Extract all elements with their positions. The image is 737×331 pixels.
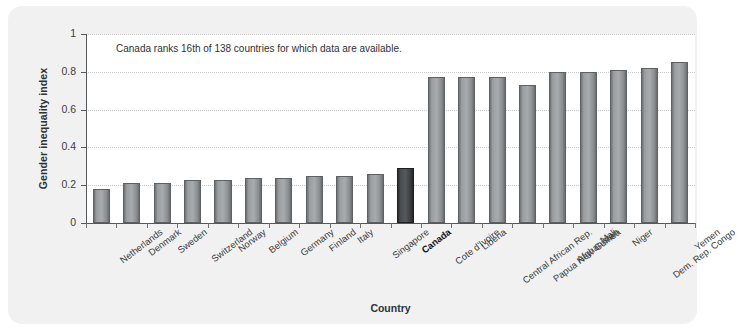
figure-panel: 00.20.40.60.81 NetherlandsDenmarkSwedenS… bbox=[8, 6, 697, 324]
y-axis-title: Gender inequality index bbox=[34, 34, 52, 223]
x-axis-title: Country bbox=[86, 302, 695, 314]
bar-afghanistan bbox=[549, 72, 566, 223]
bar-denmark bbox=[123, 183, 140, 223]
x-tick-mark bbox=[665, 223, 666, 228]
bar-singapore bbox=[367, 174, 384, 223]
x-tick-mark bbox=[543, 223, 544, 228]
y-tick-mark bbox=[81, 185, 86, 186]
gridline bbox=[86, 110, 695, 111]
x-tick-mark bbox=[147, 223, 148, 228]
y-tick-label: 1 bbox=[48, 27, 76, 39]
gridline bbox=[86, 147, 695, 148]
x-tick-mark bbox=[238, 223, 239, 228]
gridline bbox=[86, 185, 695, 186]
gridline bbox=[86, 72, 695, 73]
x-tick-mark bbox=[604, 223, 605, 228]
bar-finland bbox=[306, 176, 323, 223]
y-tick-label: 0.6 bbox=[48, 103, 76, 115]
x-tick-mark bbox=[391, 223, 392, 228]
y-tick-mark bbox=[81, 34, 86, 35]
y-tick-mark bbox=[81, 147, 86, 148]
y-tick-mark bbox=[81, 110, 86, 111]
bar-mali bbox=[580, 72, 597, 223]
y-tick-label: 0.4 bbox=[48, 140, 76, 152]
x-category-label: Belgium bbox=[267, 227, 300, 255]
x-tick-mark bbox=[360, 223, 361, 228]
x-tick-mark bbox=[299, 223, 300, 228]
plot-area bbox=[86, 34, 695, 223]
x-tick-mark bbox=[451, 223, 452, 228]
gridline bbox=[86, 34, 695, 35]
x-tick-mark bbox=[634, 223, 635, 228]
bar-italy bbox=[336, 176, 353, 223]
bar-liberia bbox=[458, 77, 475, 223]
y-axis bbox=[86, 34, 87, 223]
bar-canada bbox=[397, 168, 414, 223]
bar-switzerland bbox=[184, 180, 201, 223]
x-tick-mark bbox=[695, 223, 696, 228]
chart-annotation: Canada ranks 16th of 138 countries for w… bbox=[116, 43, 402, 54]
bar-germany bbox=[275, 178, 292, 223]
x-category-label: Liberia bbox=[479, 227, 507, 251]
bar-niger bbox=[610, 70, 627, 223]
bar-norway bbox=[214, 180, 231, 223]
x-tick-mark bbox=[573, 223, 574, 228]
x-tick-mark bbox=[116, 223, 117, 228]
bar-sweden bbox=[154, 183, 171, 223]
y-tick-label: 0 bbox=[48, 216, 76, 228]
x-tick-mark bbox=[269, 223, 270, 228]
x-category-label: Italy bbox=[355, 227, 374, 245]
x-tick-mark bbox=[512, 223, 513, 228]
x-category-label: Niger bbox=[630, 227, 654, 248]
bar-central-african-rep bbox=[489, 77, 506, 223]
y-tick-mark bbox=[81, 72, 86, 73]
x-tick-mark bbox=[482, 223, 483, 228]
bar-netherlands bbox=[93, 189, 110, 223]
bar-belgium bbox=[245, 178, 262, 223]
x-tick-mark bbox=[208, 223, 209, 228]
y-tick-label: 0.2 bbox=[48, 178, 76, 190]
bar-yemen bbox=[671, 62, 688, 223]
bar-dem-rep-congo bbox=[641, 68, 658, 223]
x-tick-mark bbox=[86, 223, 87, 228]
y-tick-label: 0.8 bbox=[48, 65, 76, 77]
bar-papua-new-guinea bbox=[519, 85, 536, 223]
bar-cote-d-ivoire bbox=[428, 77, 445, 223]
